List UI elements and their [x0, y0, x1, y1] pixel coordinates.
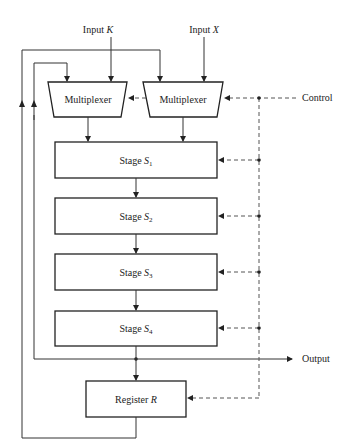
control-arrowheads: [128, 95, 230, 401]
multiplexer-right-label: Multiplexer: [159, 94, 207, 105]
control-label: Control: [302, 92, 333, 103]
register-label: Register R: [115, 394, 157, 405]
input-x-label: Input X: [189, 24, 220, 35]
output-label: Output: [302, 353, 330, 364]
pipeline-diagram: Input K Input X Multiplexer Multiplexer …: [0, 0, 354, 447]
inner-feedback-up-arrow: [31, 100, 37, 107]
input-k-label: Input K: [83, 24, 115, 35]
diagram-svg: Input K Input X Multiplexer Multiplexer …: [0, 0, 354, 447]
multiplexer-left-label: Multiplexer: [64, 94, 112, 105]
outer-feedback-up-arrow: [19, 100, 25, 107]
